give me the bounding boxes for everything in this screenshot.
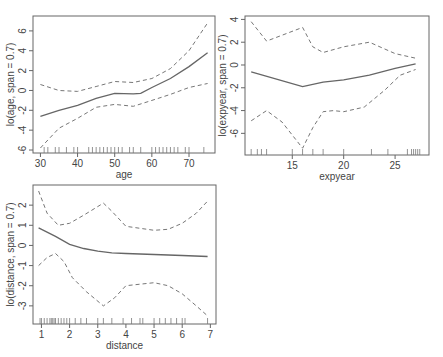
x-axis-label: expyear: [319, 171, 355, 182]
y-tick-label: 2: [229, 39, 240, 45]
panel-age: age lo(age, span = 0.7) 3040506070-6-4-2…: [5, 16, 215, 180]
smooth-fit-line: [40, 53, 207, 117]
x-tick-label: 2: [67, 329, 73, 340]
y-tick-label: -3: [17, 301, 28, 310]
x-tick-label: 6: [179, 329, 185, 340]
y-tick-label: 2: [17, 67, 28, 73]
panel-expyear: expyear lo(expyear, span = 0.7) 152025-6…: [217, 16, 429, 182]
y-axis-label: lo(age, span = 0.7): [5, 43, 16, 127]
x-tick-label: 3: [95, 329, 101, 340]
y-tick-label: -2: [17, 105, 28, 114]
x-tick-label: 30: [35, 158, 47, 169]
x-tick-label: 5: [151, 329, 157, 340]
y-tick-label: -1: [17, 261, 28, 270]
y-tick-label: -6: [229, 128, 240, 137]
x-tick-label: 4: [123, 329, 129, 340]
y-tick-label: -4: [17, 125, 28, 134]
y-tick-label: -4: [229, 106, 240, 115]
plot-frame: [33, 16, 215, 153]
panel-distance: distance lo(distance, span = 0.7) 123456…: [5, 185, 216, 351]
y-tick-label: 6: [17, 28, 28, 34]
x-tick-label: 60: [146, 158, 158, 169]
plot-frame: [33, 185, 216, 324]
smooth-fit-line: [39, 228, 208, 257]
x-tick-label: 15: [287, 160, 299, 171]
y-tick-label: 2: [17, 202, 28, 208]
x-tick-label: 70: [183, 158, 195, 169]
y-axis-label: lo(expyear, span = 0.7): [217, 34, 228, 136]
y-tick-label: 4: [229, 16, 240, 22]
lower-band-line: [39, 254, 208, 316]
upper-band-line: [39, 191, 208, 230]
y-tick-label: -6: [17, 145, 28, 154]
x-axis-label: distance: [106, 340, 144, 351]
y-tick-label: 1: [17, 222, 28, 228]
x-tick-label: 50: [109, 158, 121, 169]
x-tick-label: 7: [208, 329, 214, 340]
y-tick-label: 0: [17, 242, 28, 248]
smooth-fit-line: [251, 64, 415, 87]
x-tick-label: 40: [72, 158, 84, 169]
x-tick-label: 20: [338, 160, 350, 171]
y-tick-label: -2: [229, 83, 240, 92]
upper-band-line: [40, 23, 207, 92]
y-axis-label: lo(distance, span = 0.7): [5, 202, 16, 306]
upper-band-line: [251, 22, 415, 59]
x-axis-label: age: [116, 169, 133, 180]
y-tick-label: -2: [17, 281, 28, 290]
gam-partial-plots: age lo(age, span = 0.7) 3040506070-6-4-2…: [0, 0, 443, 357]
x-tick-label: 25: [390, 160, 402, 171]
x-tick-label: 1: [39, 329, 45, 340]
plot-frame: [245, 16, 429, 155]
y-tick-label: 4: [17, 48, 28, 54]
y-tick-label: 0: [229, 62, 240, 68]
y-tick-label: 0: [17, 87, 28, 93]
